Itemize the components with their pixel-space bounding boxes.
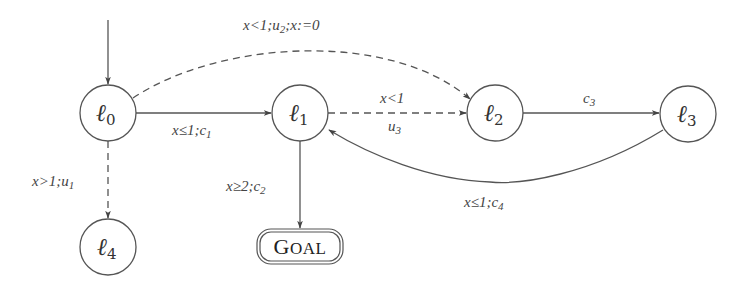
label-edge-l1-goal: x≥2;c2 xyxy=(225,178,266,196)
node-l2: ℓ2 xyxy=(467,85,523,141)
timed-automaton-diagram: ℓ0 ℓ1 ℓ2 ℓ3 ℓ4 GOAL x<1;u2;x:=0 x≤1;c1 x… xyxy=(0,0,746,290)
label-edge-l0-l4: x>1;u1 xyxy=(31,173,74,191)
label-edge-l0-l1: x≤1;c1 xyxy=(171,122,212,140)
node-l3: ℓ3 xyxy=(660,86,716,142)
node-l1: ℓ1 xyxy=(272,85,328,141)
label-edge-l2-l3: c3 xyxy=(583,90,596,108)
label-edge-l0-l2: x<1;u2;x:=0 xyxy=(242,17,320,35)
label-edge-l3-l1: x≤1;c4 xyxy=(463,194,504,212)
node-l0: ℓ0 xyxy=(80,85,136,141)
node-l4: ℓ4 xyxy=(80,219,136,275)
label-edge-l1-l2-action: u3 xyxy=(388,118,402,136)
node-goal: GOAL xyxy=(257,229,343,264)
label-edge-l1-l2-guard: x<1 xyxy=(379,90,404,106)
